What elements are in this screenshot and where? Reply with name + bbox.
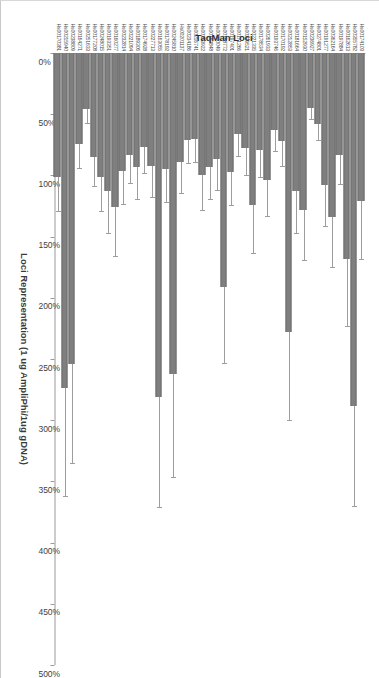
bar-row: Hs00170192 (280, 53, 284, 665)
bar-row: Hs00261933 (266, 53, 270, 665)
error-bar-cap (92, 186, 97, 187)
bar (350, 53, 356, 406)
bar-row: Hs00234186 (186, 53, 190, 665)
error-bar (275, 130, 276, 151)
category-label: Hs00160277 (113, 23, 118, 50)
error-bar (195, 138, 196, 161)
category-label: Hs00170381 (56, 23, 61, 50)
bar (271, 53, 277, 130)
error-bar (340, 154, 341, 183)
bar (177, 53, 183, 162)
error-bar (238, 133, 239, 155)
bar (256, 53, 262, 150)
bar-row: Hs00236927 (309, 53, 313, 665)
bar-row: Hs00191277 (324, 53, 328, 665)
bar-row: Hs00221094 (128, 53, 132, 665)
bar (61, 53, 67, 388)
axis-tick (51, 297, 55, 298)
error-bar-cap (193, 161, 198, 162)
error-bar (65, 388, 66, 496)
bar (97, 53, 103, 177)
error-bar (304, 209, 305, 259)
error-bar-cap (359, 258, 364, 259)
error-bar (101, 176, 102, 210)
error-bar-cap (244, 175, 249, 176)
error-bar-cap (273, 150, 278, 151)
bar-row: Hs00197884 (338, 53, 342, 665)
error-bar-cap (222, 362, 227, 363)
error-bar-cap (330, 267, 335, 268)
bar-row: Hs00171266 (237, 53, 241, 665)
error-bar (152, 165, 153, 197)
axis-tick (51, 359, 55, 360)
bar-row: Hs00274801 (316, 53, 320, 665)
error-bar (253, 204, 254, 252)
bar (242, 53, 248, 148)
category-label: Hs00174103 (359, 23, 364, 50)
error-bar (318, 123, 319, 139)
bar (293, 53, 299, 191)
error-bar (123, 170, 124, 203)
error-bar-cap (114, 256, 119, 257)
error-bar (231, 171, 232, 204)
bar-row: Hs00355782 (352, 53, 356, 665)
bar (307, 53, 313, 108)
category-label: Hs00274801 (316, 23, 321, 50)
category-label: Hs00164271 (77, 23, 82, 50)
axis-tick-label: 500% (39, 668, 60, 678)
bar (329, 53, 335, 217)
bar (90, 53, 96, 157)
error-bar-cap (287, 420, 292, 421)
error-bar (210, 166, 211, 198)
rotated-figure-wrapper: 0%50%100%150%200%250%300%350%400%450%500… (1, 1, 379, 678)
error-bar-cap (294, 232, 299, 233)
bar (336, 53, 342, 155)
error-bar-cap (316, 139, 321, 140)
bar (220, 53, 226, 287)
bar (76, 53, 82, 144)
error-bar-cap (309, 119, 314, 120)
bar (314, 53, 320, 124)
axis-tick (51, 665, 55, 666)
bar (112, 53, 118, 207)
error-bar (332, 217, 333, 267)
error-bar (361, 201, 362, 259)
error-bar (296, 191, 297, 233)
bar-row: Hs00239521 (244, 53, 248, 665)
error-bar-cap (128, 182, 133, 183)
error-bar (224, 286, 225, 362)
bar-row: Hs00177208 (92, 53, 96, 665)
bar (133, 53, 139, 167)
error-bar (94, 157, 95, 186)
bar-row: Hs00188772 (222, 53, 226, 665)
error-bar-cap (77, 168, 82, 169)
error-bar-cap (63, 496, 68, 497)
error-bar-cap (70, 463, 75, 464)
bar-row: Hs00152930 (302, 53, 306, 665)
category-label: Hs00191277 (323, 23, 328, 50)
bar-row: Hs00193746 (273, 53, 277, 665)
error-bar-cap (352, 505, 357, 506)
bar (83, 53, 89, 109)
error-bar (282, 141, 283, 165)
error-bar (202, 175, 203, 209)
bar-chart-figure: 0%50%100%150%200%250%300%350%400%450%500… (1, 1, 379, 678)
bar-row: Hs00216741 (193, 53, 197, 665)
error-bar-cap (157, 507, 162, 508)
bar-row: Hs00300049 (215, 53, 219, 665)
error-bar (354, 405, 355, 505)
error-bar-cap (121, 203, 126, 204)
axis-tick (51, 420, 55, 421)
bar-row: Hs00253922 (201, 53, 205, 665)
error-bar (325, 185, 326, 225)
bar (119, 53, 125, 171)
bar-row: Hs00174928 (143, 53, 147, 665)
error-bar-cap (280, 165, 285, 166)
bar (184, 53, 190, 140)
bar-row: Hs00163848 (208, 53, 212, 665)
error-bar-cap (345, 325, 350, 326)
category-label: Hs00355782 (352, 23, 357, 50)
bar (235, 53, 241, 134)
bar (343, 53, 349, 259)
bar-row: Hs00215940 (63, 53, 67, 665)
